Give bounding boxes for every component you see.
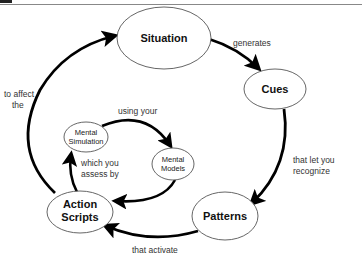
edge-label-generates: generates <box>233 38 271 48</box>
node-label-mental-sim-line2: Simulation <box>68 137 103 146</box>
edge-label-using-your: using your <box>118 106 157 116</box>
node-label-action: Action <box>63 198 98 210</box>
edge-label-assess-by: assess by <box>81 169 120 179</box>
edge-label-that-activate: that activate <box>132 245 178 255</box>
edge-cues-to-patterns <box>252 109 285 203</box>
node-label-mental-sim-line1: Mental <box>75 128 98 137</box>
edge-label-that-let-you: that let you <box>293 155 335 165</box>
rpd-cycle-diagram: generates that let you recognize that ac… <box>0 0 362 259</box>
node-cues: Cues <box>244 69 306 109</box>
node-mental-simulation: Mental Simulation <box>64 122 108 152</box>
header-fragment <box>0 0 12 3</box>
edge-mental-models-to-action-scripts <box>116 180 175 201</box>
node-label-scripts: Scripts <box>61 211 98 223</box>
edge-patterns-to-action-scripts <box>106 226 198 237</box>
edge-label-which-you: which you <box>80 158 119 168</box>
node-patterns: Patterns <box>192 192 258 240</box>
node-mental-models: Mental Models <box>152 148 194 180</box>
edge-label-to-affect: to affect <box>4 89 35 99</box>
node-label-patterns: Patterns <box>203 210 247 222</box>
edge-label-recognize: recognize <box>293 166 330 176</box>
node-situation: Situation <box>117 7 211 69</box>
node-action-scripts: Action Scripts <box>47 191 113 233</box>
node-label-mental-models-line1: Mental <box>162 155 185 164</box>
edge-action-scripts-to-mental-simulation <box>70 155 77 192</box>
node-label-cues: Cues <box>262 83 289 95</box>
edge-label-the: the <box>12 100 24 110</box>
edge-mental-simulation-to-mental-models <box>102 120 170 145</box>
node-label-mental-models-line2: Models <box>161 164 185 173</box>
node-label-situation: Situation <box>140 32 187 44</box>
